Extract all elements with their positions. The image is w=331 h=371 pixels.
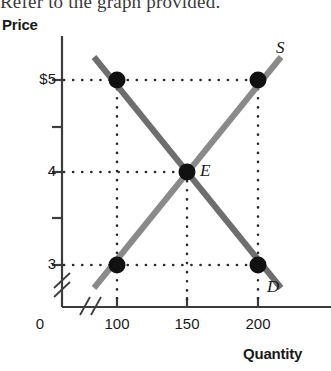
y-tick-label-4: 4	[16, 162, 56, 179]
x-tick-label-150: 150	[165, 315, 209, 332]
x-tick-label-100: 100	[95, 315, 139, 332]
demand-curve-label: D	[267, 277, 279, 297]
data-point-200-5	[250, 72, 267, 89]
supply-curve-label: S	[276, 38, 285, 58]
x-tick-label-origin: 0	[18, 315, 62, 332]
y-tick-label-5: $5	[16, 70, 56, 87]
equilibrium-label: E	[200, 161, 210, 181]
y-tick-label-3: 3	[16, 255, 56, 272]
data-point-200-3	[250, 257, 267, 274]
data-point-equilibrium	[179, 164, 196, 181]
horizontal-guide-lines	[64, 80, 264, 265]
data-point-100-3	[109, 257, 126, 274]
x-tick-label-200: 200	[236, 315, 280, 332]
data-point-100-5	[109, 72, 126, 89]
